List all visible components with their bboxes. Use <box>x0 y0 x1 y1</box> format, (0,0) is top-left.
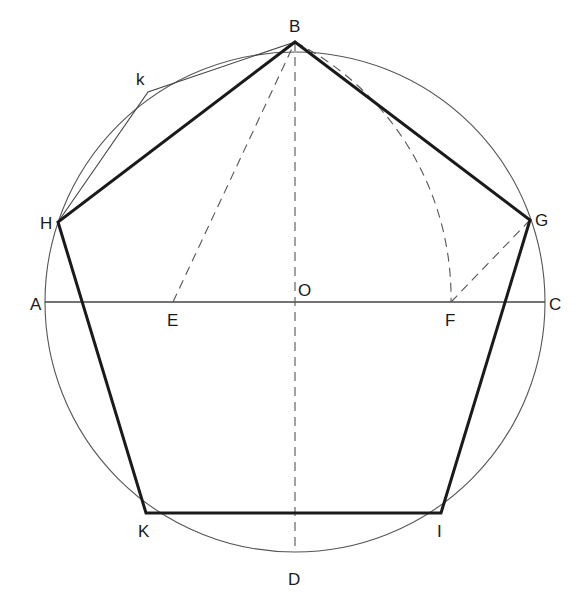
label-B: B <box>289 17 300 36</box>
label-F: F <box>445 311 455 330</box>
dashed-arc-BF <box>295 42 451 302</box>
regular-pentagon <box>58 42 530 513</box>
dashed-line-EB <box>173 42 295 302</box>
label-O: O <box>298 281 311 300</box>
label-G: G <box>535 211 548 230</box>
pentagon-construction-diagram: A B C D O E F G H K I k <box>0 0 578 612</box>
label-D: D <box>288 570 300 589</box>
label-A: A <box>30 295 42 314</box>
label-k: k <box>136 70 145 89</box>
label-C: C <box>549 295 561 314</box>
label-K: K <box>138 522 150 541</box>
label-E: E <box>167 311 178 330</box>
label-I: I <box>437 522 442 541</box>
label-H: H <box>40 214 52 233</box>
